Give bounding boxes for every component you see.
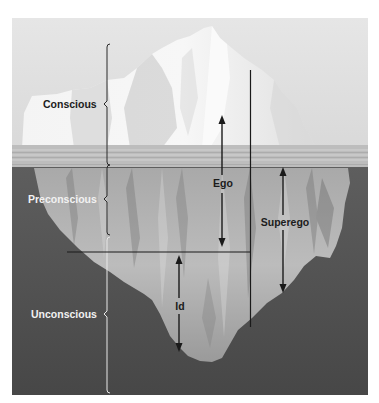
id-label: Id [174, 299, 185, 313]
conscious-label: Conscious [43, 98, 97, 110]
superego-label: Superego [260, 215, 310, 229]
iceberg-illustration [12, 18, 368, 395]
iceberg-diagram: Conscious Preconscious Unconscious Ego S… [12, 18, 368, 395]
unconscious-label: Unconscious [31, 308, 97, 320]
water-surface [12, 145, 368, 167]
preconscious-label: Preconscious [28, 193, 97, 205]
ego-label: Ego [212, 176, 234, 190]
